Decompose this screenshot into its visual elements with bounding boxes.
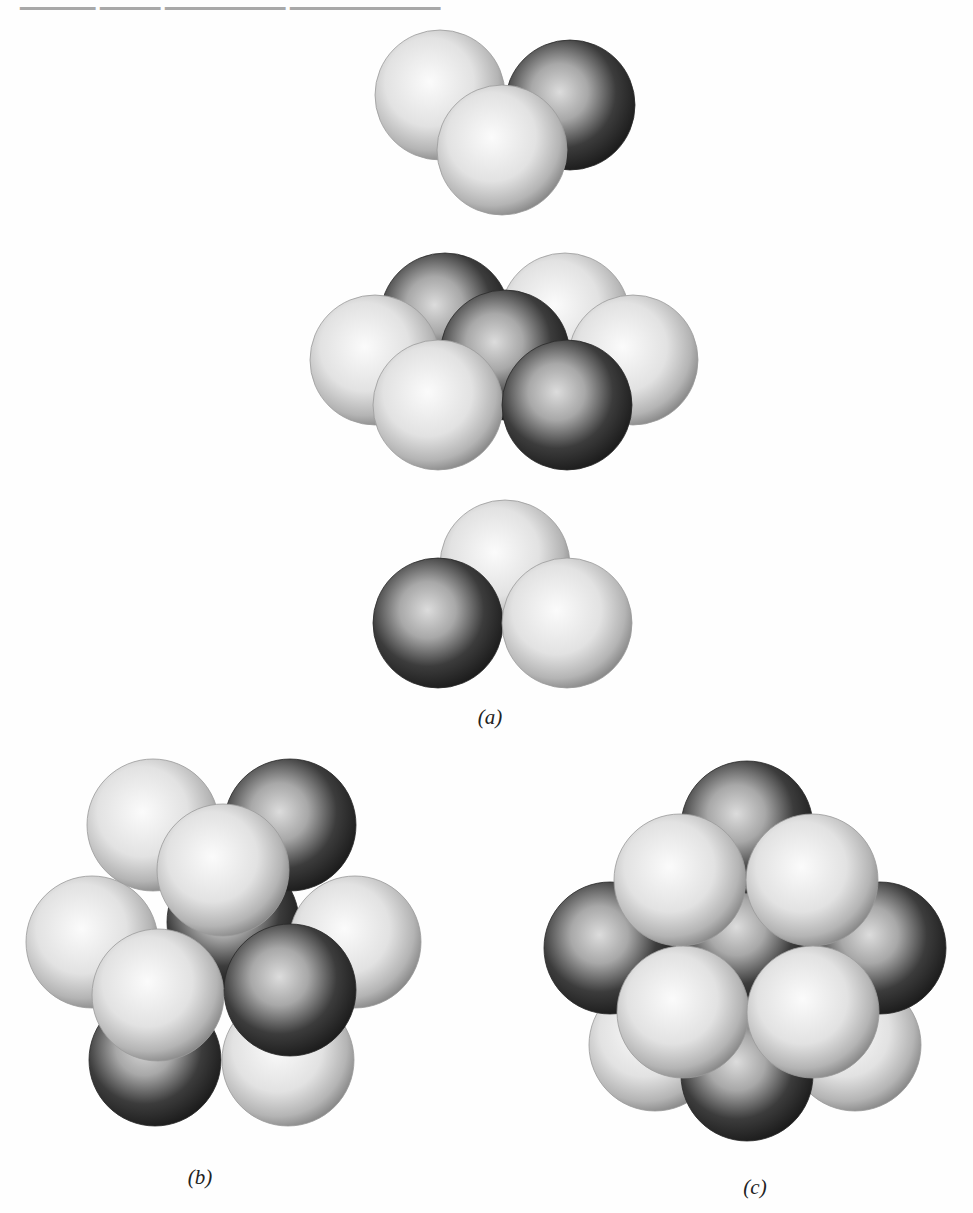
sphere-packing-figure: (a) (b) (c) [0,0,973,1213]
top-layer [375,30,635,215]
caption-a: (a) [478,705,503,729]
light-sphere [502,558,632,688]
middle-layer [310,253,698,470]
figure-page: ▁▁▁▁▁ ▁▁▁▁ ▁▁▁▁▁▁▁▁ ▁▁▁▁▁▁▁▁▁▁ (a) (b) (… [0,0,973,1213]
light-sphere [617,946,749,1078]
caption-c: (c) [743,1175,766,1199]
light-sphere [92,929,224,1061]
light-sphere [437,85,567,215]
bottom-layer [373,500,632,688]
light-sphere [157,804,289,936]
dark-sphere [224,924,356,1056]
caption-b: (b) [188,1165,213,1189]
panel-b-cluster [26,759,421,1126]
panel-c-cluster [544,761,946,1141]
dark-sphere [502,340,632,470]
light-sphere [373,340,503,470]
light-sphere [746,814,878,946]
dark-sphere [373,558,503,688]
panel-a-exploded-layers [310,30,698,688]
light-sphere [747,946,879,1078]
light-sphere [614,814,746,946]
